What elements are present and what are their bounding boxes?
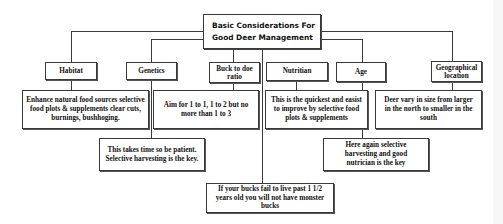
category-label: Buck to doe ratio (213, 65, 256, 81)
category-genetics: Genetics (126, 62, 177, 80)
title-line-1: Basic Considerations For (212, 20, 315, 32)
detail-geographical-location: Deer vary in size from larger in the nor… (375, 90, 482, 129)
category-label: Habitat (59, 67, 83, 76)
detail-buck-to-doe: Aim for 1 to 1, 1 to 2 but no more than … (153, 90, 259, 129)
detail-genetics: This takes time so be patient. Selective… (99, 138, 205, 171)
page-edge (493, 0, 503, 224)
connector-line (71, 79, 72, 90)
connector-line (71, 31, 204, 32)
category-label: Genetics (138, 67, 164, 76)
connector-line (151, 79, 152, 138)
category-age: Age (336, 62, 386, 82)
diagram-canvas: Basic Considerations For Good Deer Manag… (0, 0, 503, 224)
detail-text: This is the quickest and easist to impro… (269, 96, 364, 123)
detail-habitat: Enhance natural food sources selective f… (22, 90, 149, 129)
title-box: Basic Considerations For Good Deer Manag… (203, 14, 321, 49)
connector-line (320, 39, 363, 40)
connector-line (71, 31, 72, 62)
detail-text: Aim for 1 to 1, 1 to 2 but no more than … (162, 101, 250, 119)
title-line-2: Good Deer Management (212, 32, 315, 44)
connector-line (151, 39, 204, 40)
detail-text: Here again selective harvesting and good… (330, 141, 422, 168)
category-geographical-location: Geographical location (431, 61, 482, 82)
connector-line (233, 82, 234, 90)
detail-text: Enhance natural food sources selective f… (26, 96, 145, 123)
category-habitat: Habitat (45, 62, 97, 80)
detail-text: This takes time so be patient. Selective… (103, 146, 201, 164)
connector-line (151, 39, 152, 62)
connector-line (296, 80, 297, 90)
detail-bottom-note: If your bucks fail to live past 1 1/2 ye… (206, 183, 334, 213)
detail-age: Here again selective harvesting and good… (323, 138, 429, 171)
detail-text: Deer vary in size from larger in the nor… (384, 96, 473, 123)
category-label: Nutritian (283, 67, 312, 76)
connector-line (452, 81, 453, 90)
detail-text: If your bucks fail to live past 1 1/2 ye… (210, 185, 330, 211)
category-nutrition: Nutritian (266, 62, 328, 81)
connector-line (262, 48, 263, 183)
category-buck-to-doe: Buck to doe ratio (209, 62, 260, 83)
detail-nutrition: This is the quickest and easist to impro… (265, 90, 368, 129)
category-label: Geographical location (435, 64, 478, 80)
category-label: Age (355, 68, 367, 77)
connector-line (362, 39, 363, 62)
connector-line (452, 31, 453, 61)
connector-line (320, 31, 453, 32)
connector-line (233, 48, 234, 62)
